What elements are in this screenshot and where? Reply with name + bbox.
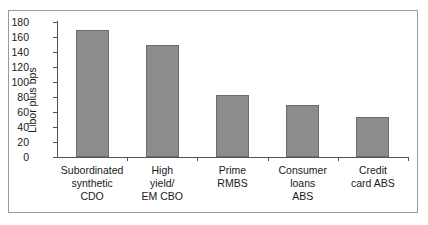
plot-area: 020406080100120140160180	[57, 22, 408, 157]
x-axis-tick	[338, 157, 339, 161]
y-axis-tick	[53, 157, 57, 158]
y-axis-tick-label: 180	[0, 17, 29, 27]
x-axis-category-label: Consumer loans ABS	[268, 164, 338, 203]
bar	[76, 30, 109, 157]
y-axis-tick-label: 0	[0, 152, 29, 162]
x-axis-line	[57, 157, 409, 158]
bar	[216, 95, 249, 157]
y-axis-tick-label: 20	[0, 137, 29, 147]
y-axis-tick-label: 80	[0, 92, 29, 102]
y-axis-tick	[53, 127, 57, 128]
x-axis-tick	[197, 157, 198, 161]
y-axis-tick-label: 100	[0, 77, 29, 87]
y-axis-tick	[53, 52, 57, 53]
x-axis-category-label: Prime RMBS	[197, 164, 267, 190]
y-axis-tick	[53, 37, 57, 38]
figure: Libor plus bps 020406080100120140160180 …	[0, 0, 428, 225]
y-axis-tick	[53, 112, 57, 113]
y-axis-tick	[53, 22, 57, 23]
x-axis-tick	[268, 157, 269, 161]
y-axis-tick	[53, 142, 57, 143]
x-axis-tick	[408, 157, 409, 161]
y-axis-tick-label: 120	[0, 62, 29, 72]
x-axis-category-label: High yield/ EM CBO	[127, 164, 197, 203]
bar	[286, 105, 319, 157]
x-axis-category-label: Credit card ABS	[338, 164, 408, 190]
y-axis-tick-label: 160	[0, 32, 29, 42]
y-axis-tick	[53, 67, 57, 68]
bar	[356, 117, 389, 157]
bar	[146, 45, 179, 157]
y-axis-tick	[53, 97, 57, 98]
y-axis-tick	[53, 82, 57, 83]
y-axis-tick-label: 40	[0, 122, 29, 132]
y-axis-tick-label: 60	[0, 107, 29, 117]
y-axis-tick-label: 140	[0, 47, 29, 57]
x-axis-category-label: Subordinated synthetic CDO	[57, 164, 127, 203]
x-axis-tick	[127, 157, 128, 161]
